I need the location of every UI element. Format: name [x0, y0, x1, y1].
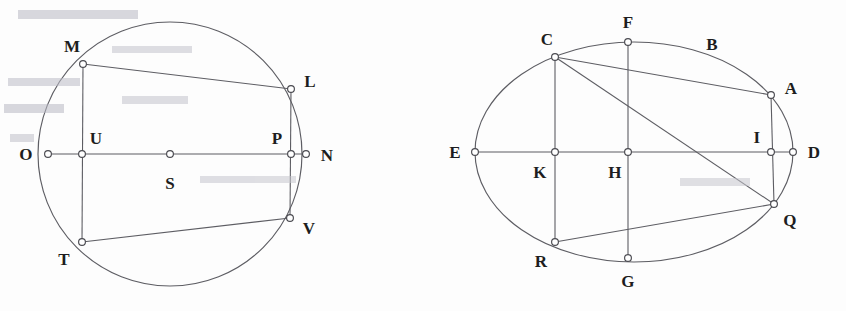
- point-marker-U: [79, 151, 86, 158]
- point-label-H: H: [608, 164, 621, 181]
- geometry-canvas: [0, 0, 846, 311]
- point-label-I: I: [754, 129, 761, 146]
- segment-T-V: [82, 218, 290, 242]
- point-marker-V: [287, 215, 294, 222]
- point-marker-N: [303, 151, 310, 158]
- point-label-D: D: [808, 144, 820, 161]
- point-marker-E: [472, 149, 479, 156]
- point-label-K: K: [533, 164, 546, 181]
- point-label-O: O: [19, 146, 32, 163]
- point-label-N: N: [321, 147, 333, 164]
- point-label-A: A: [785, 80, 797, 97]
- point-marker-O: [45, 151, 52, 158]
- point-marker-G: [625, 255, 632, 262]
- point-marker-F: [625, 39, 632, 46]
- point-label-L: L: [304, 73, 316, 90]
- point-label-E: E: [449, 144, 461, 161]
- point-label-V: V: [303, 220, 315, 237]
- point-label-S: S: [165, 175, 175, 192]
- point-label-R: R: [535, 253, 547, 270]
- point-marker-L: [288, 86, 295, 93]
- point-label-M: M: [64, 38, 80, 55]
- point-marker-M: [80, 61, 87, 68]
- point-label-P: P: [272, 130, 283, 147]
- point-marker-S: [167, 151, 174, 158]
- point-marker-K: [552, 149, 559, 156]
- point-marker-Q: [771, 201, 778, 208]
- right-figure-group: [472, 39, 797, 262]
- left-figure-group: [38, 22, 309, 286]
- point-marker-I: [768, 149, 775, 156]
- point-marker-D: [790, 149, 797, 156]
- figure-root: O U S P N M L T V E K H I D C F B A Q R …: [0, 0, 846, 311]
- point-marker-R: [552, 239, 559, 246]
- point-marker-C: [552, 54, 559, 61]
- point-label-B: B: [706, 36, 718, 53]
- segment-M-L: [83, 64, 291, 89]
- point-marker-A: [768, 92, 775, 99]
- point-label-G: G: [621, 273, 634, 290]
- segment-C-Q: [555, 57, 774, 204]
- point-label-T: T: [58, 251, 70, 268]
- point-label-U: U: [90, 130, 102, 147]
- segment-C-A: [555, 57, 771, 95]
- point-marker-T: [79, 239, 86, 246]
- segment-R-Q: [555, 204, 774, 242]
- scan-artifacts: [4, 10, 750, 186]
- point-marker-H: [625, 149, 632, 156]
- point-label-F: F: [623, 14, 634, 31]
- point-label-Q: Q: [783, 212, 796, 229]
- point-marker-P: [288, 151, 295, 158]
- point-label-C: C: [541, 31, 553, 48]
